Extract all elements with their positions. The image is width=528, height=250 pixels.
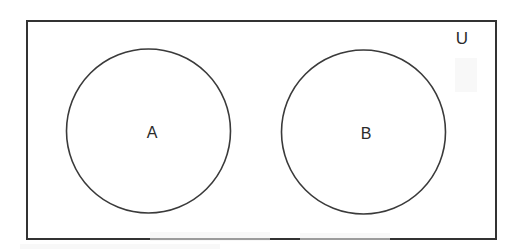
universal-set-label: U <box>456 29 468 48</box>
universal-set-rectangle <box>27 21 496 239</box>
set-label-a: A <box>147 124 158 141</box>
set-label-b: B <box>361 125 372 142</box>
venn-diagram-canvas: A B U <box>0 0 528 250</box>
venn-diagram-figure: A B U <box>0 0 528 250</box>
